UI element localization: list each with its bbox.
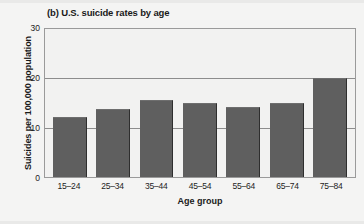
x-axis-label: Age group xyxy=(44,196,356,206)
y-tick-label-30: 30 xyxy=(14,23,40,33)
y-tick-label-20: 20 xyxy=(14,73,40,83)
bar-slot xyxy=(309,29,352,177)
paper-edge-bottom xyxy=(0,221,364,224)
bar-25-34[interactable] xyxy=(96,109,130,177)
x-tick-label-25-34: 25–34 xyxy=(91,181,135,191)
x-tick-label-15-24: 15–24 xyxy=(47,181,91,191)
bar-65-74[interactable] xyxy=(270,103,304,177)
x-tick-label-75-84: 75–84 xyxy=(309,181,353,191)
bar-45-54[interactable] xyxy=(183,103,217,177)
bar-slot xyxy=(178,29,221,177)
bar-slot xyxy=(91,29,134,177)
y-axis-tick-group: 30 20 10 0 xyxy=(12,28,40,178)
x-tick-label-65-74: 65–74 xyxy=(266,181,310,191)
y-tick-label-10: 10 xyxy=(14,123,40,133)
x-axis-tick-group: 15–24 25–34 35–44 45–54 55–64 65–74 75–8… xyxy=(44,181,356,191)
bar-slot xyxy=(265,29,308,177)
x-tick-label-45-54: 45–54 xyxy=(178,181,222,191)
paper-edge-top xyxy=(0,0,364,3)
plot-area xyxy=(44,28,356,178)
bar-slot xyxy=(222,29,265,177)
y-tick-label-0: 0 xyxy=(14,173,40,183)
bar-75-84[interactable] xyxy=(313,78,347,177)
x-tick-label-35-44: 35–44 xyxy=(134,181,178,191)
bar-slot xyxy=(135,29,178,177)
figure-panel: (b) U.S. suicide rates by age Suicides p… xyxy=(0,0,364,224)
chart-title: (b) U.S. suicide rates by age xyxy=(47,7,169,18)
bar-slot xyxy=(48,29,91,177)
bar-series xyxy=(45,29,355,177)
bar-35-44[interactable] xyxy=(140,100,174,177)
bar-55-64[interactable] xyxy=(226,107,260,177)
bar-15-24[interactable] xyxy=(53,117,87,177)
x-tick-label-55-64: 55–64 xyxy=(222,181,266,191)
